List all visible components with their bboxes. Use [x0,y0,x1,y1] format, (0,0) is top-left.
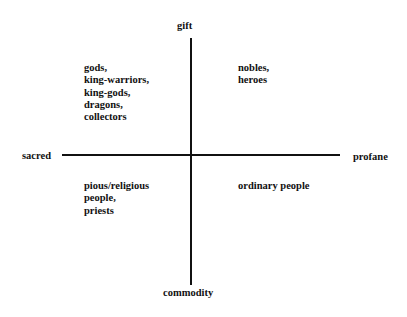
quadrant-top-left: gods, king-warriors, king-gods, dragons,… [84,62,149,123]
quadrant-item: people, [84,192,149,204]
quadrant-item: king-gods, [84,87,149,99]
quadrant-item: dragons, [84,99,149,111]
quadrant-top-right: nobles, heroes [238,62,269,87]
quadrant-item: pious/religious [84,180,149,192]
quadrant-item: nobles, [238,62,269,74]
quadrant-item: priests [84,205,149,217]
quadrant-item: king-warriors, [84,74,149,86]
quadrant-item: ordinary people [238,180,309,192]
vertical-axis-line [190,38,192,285]
quadrant-item: gods, [84,62,149,74]
quadrant-bottom-right: ordinary people [238,180,309,192]
axis-label-gift: gift [177,20,192,32]
horizontal-axis-line [62,154,340,156]
axis-label-commodity: commodity [163,287,213,299]
axis-label-sacred: sacred [22,150,51,162]
axis-label-profane: profane [353,151,388,163]
quadrant-item: heroes [238,74,269,86]
quadrant-item: collectors [84,111,149,123]
quadrant-bottom-left: pious/religious people, priests [84,180,149,217]
